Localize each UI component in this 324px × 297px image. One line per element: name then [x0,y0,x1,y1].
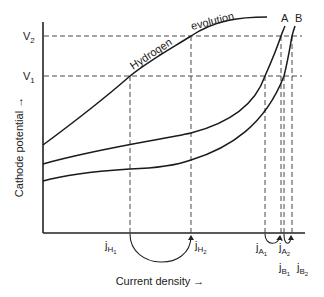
evolution-label: evolution [190,10,236,32]
jb2-label: jB2 [296,261,309,277]
jb1-label: jB1 [278,261,291,277]
jh1-label: jH1 [104,239,117,255]
hydrogen-label: Hydrogen [128,36,175,72]
jh2-label: jH2 [194,239,207,255]
x-axis-label: Current density → [116,275,205,287]
curve-a-label: A [281,12,289,24]
cathode-potential-diagram: V2 V1 Cathode potential → Current densit… [0,0,324,297]
ja-shift-arrow [265,234,280,243]
curve-b-label: B [295,12,302,24]
jb-shift-arrow [284,234,291,243]
v1-label: V1 [23,70,35,85]
ja1-label: jA1 [255,241,268,257]
jh-shift-arrow [130,234,191,262]
v2-label: V2 [23,30,35,45]
y-axis-label: Cathode potential → [13,97,25,197]
